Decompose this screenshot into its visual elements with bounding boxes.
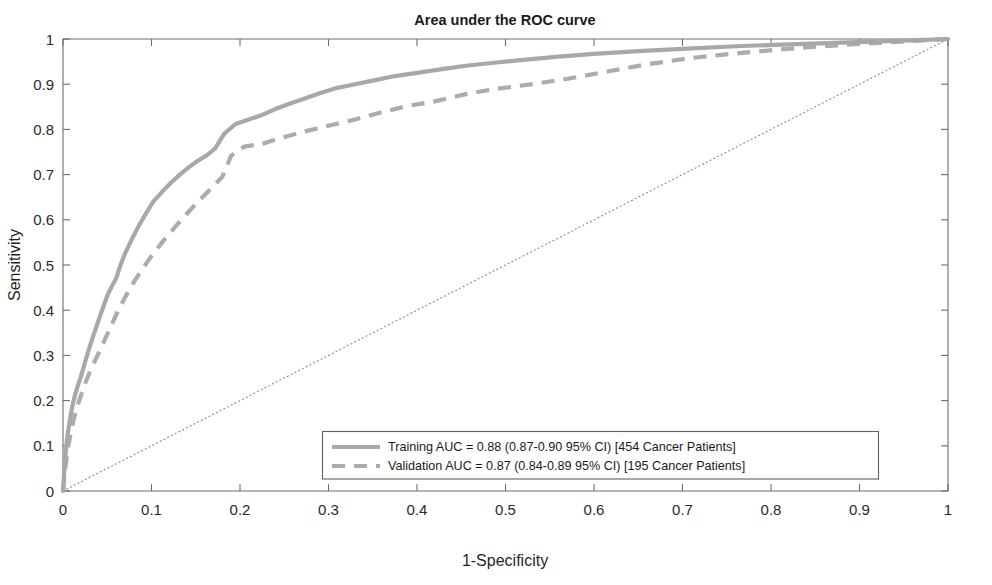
y-axis-tick-labels: 00.10.20.30.40.50.60.70.80.91 xyxy=(33,31,54,500)
x-tick-label: 1 xyxy=(944,501,952,518)
x-tick-label: 0.6 xyxy=(584,501,605,518)
x-tick-label: 0.9 xyxy=(849,501,870,518)
y-tick-label: 1 xyxy=(46,31,54,48)
legend-label-training: Training AUC = 0.88 (0.87-0.90 95% CI) [… xyxy=(388,440,736,454)
y-tick-label: 0.6 xyxy=(33,211,54,228)
legend: Training AUC = 0.88 (0.87-0.90 95% CI) [… xyxy=(323,432,879,480)
y-tick-label: 0.3 xyxy=(33,347,54,364)
x-axis-tick-labels: 00.10.20.30.40.50.60.70.80.91 xyxy=(59,501,952,518)
y-axis-title: Sensitivity xyxy=(6,229,23,301)
x-tick-label: 0 xyxy=(59,501,67,518)
chart-title: Area under the ROC curve xyxy=(414,12,595,28)
y-tick-label: 0.8 xyxy=(33,121,54,138)
x-axis-title: 1-Specificity xyxy=(462,552,548,569)
y-tick-label: 0.5 xyxy=(33,257,54,274)
y-tick-label: 0.4 xyxy=(33,302,54,319)
y-tick-label: 0 xyxy=(46,483,54,500)
y-tick-label: 0.7 xyxy=(33,166,54,183)
x-tick-label: 0.8 xyxy=(761,501,782,518)
x-tick-label: 0.5 xyxy=(495,501,516,518)
y-tick-label: 0.2 xyxy=(33,392,54,409)
y-tick-label: 0.9 xyxy=(33,76,54,93)
y-tick-label: 0.1 xyxy=(33,437,54,454)
chart-canvas: Area under the ROC curve 00.10.20.30.40.… xyxy=(0,0,992,585)
chance-diagonal-line xyxy=(63,39,948,491)
roc-curve-figure: Area under the ROC curve 00.10.20.30.40.… xyxy=(0,0,992,585)
legend-label-validation: Validation AUC = 0.87 (0.84-0.89 95% CI)… xyxy=(388,459,745,473)
x-tick-label: 0.2 xyxy=(230,501,251,518)
x-tick-label: 0.7 xyxy=(672,501,693,518)
x-tick-label: 0.4 xyxy=(407,501,428,518)
x-tick-label: 0.1 xyxy=(141,501,162,518)
x-tick-label: 0.3 xyxy=(318,501,339,518)
